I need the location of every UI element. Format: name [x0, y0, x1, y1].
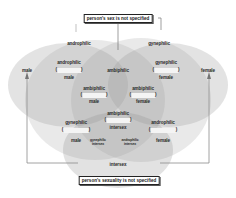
sex-unspecified-box: person's sex is not specified — [84, 14, 153, 23]
gynephilic-male-bottom: male — [71, 138, 81, 143]
gynephilic-male-paren: (heterosexual) — [62, 127, 91, 133]
ambiphilic-female-paren: (bisexual) — [129, 92, 156, 98]
androphilic-female-bottom: female — [156, 138, 170, 143]
ambiphilic-label: ambiphilic — [107, 68, 129, 73]
gynephilic-intersex-label: gynephilic intersex — [90, 139, 106, 146]
female-label: female — [201, 68, 215, 73]
ambiphilic-male-paren: (bisexual) — [80, 92, 107, 98]
ambiphilic-female-top: ambiphilic — [132, 86, 154, 91]
ambiphilic-male-top: ambiphilic — [83, 86, 105, 91]
venn-shapes — [0, 0, 236, 198]
androphilic-female-top: androphilic — [151, 120, 175, 125]
androphilic-intersex-line2: intersex — [121, 143, 138, 147]
gynephilic-label: gynephilic — [148, 41, 170, 46]
gynephilic-intersex-line2: intersex — [90, 143, 106, 147]
androphilic-male-paren: (homosexual) — [55, 67, 82, 73]
androphilic-female-paren: (heterosexual) — [149, 127, 178, 133]
male-label: male — [22, 68, 32, 73]
gynephilic-female-paren: (homosexual) — [152, 67, 179, 73]
gynephilic-male-top: gynephilic — [65, 120, 87, 125]
androphilic-male-top: androphilic — [57, 60, 81, 65]
gynephilic-female-bottom: female — [159, 75, 173, 80]
ambiphilic-female-bottom: female — [136, 99, 150, 104]
venn-diagram: person's sex is not specified androphili… — [0, 0, 236, 198]
ambiphilic-intersex-top: ambiphilic — [107, 111, 129, 116]
sexuality-unspecified-box: person's sexuality is not specified — [79, 176, 160, 185]
ambiphilic-male-bottom: male — [89, 99, 99, 104]
androphilic-male-bottom: male — [64, 75, 74, 80]
ambiphilic-intersex-bottom: intersex — [110, 125, 127, 130]
androphilic-label: androphilic — [67, 41, 91, 46]
ambiphilic-intersex-paren: (bisexual) — [104, 117, 131, 123]
intersex-only-label: intersex — [110, 162, 127, 167]
androphilic-intersex-label: androphilic intersex — [121, 139, 138, 146]
gynephilic-female-top: gynephilic — [155, 60, 177, 65]
